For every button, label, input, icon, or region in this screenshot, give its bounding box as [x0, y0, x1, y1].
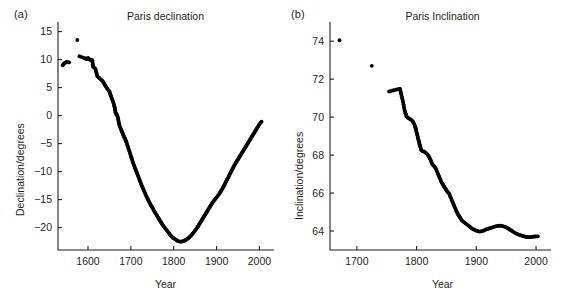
panel-b-plot-area: 7472706866641700180019002000 — [283, 0, 566, 302]
y-tick-label: 10 — [40, 53, 52, 65]
y-tick-label: −10 — [34, 165, 52, 177]
panel-b-title: Paris Inclination — [330, 10, 555, 22]
y-tick-label: −20 — [34, 221, 52, 233]
y-tick-label: −5 — [40, 137, 52, 149]
y-tick-label: 74 — [312, 35, 324, 47]
y-tick-label: 72 — [312, 73, 324, 85]
panel-a-y-axis-title: Declination/degrees — [14, 123, 26, 216]
y-tick-label: 0 — [46, 109, 52, 121]
y-tick-label: 70 — [312, 111, 324, 123]
y-tick-label: 68 — [312, 149, 324, 161]
data-series — [338, 38, 540, 239]
panel-a-declination: (a) Paris declination Declination/degree… — [0, 0, 283, 302]
y-tick-label: 15 — [40, 25, 52, 37]
panel-b-x-axis-title: Year — [330, 278, 555, 290]
x-tick-label: 1700 — [119, 255, 143, 267]
panel-b-inclination: (b) Paris Inclination Inclination/degree… — [283, 0, 566, 302]
x-tick-label: 1900 — [465, 255, 489, 267]
panel-b-label: (b) — [291, 8, 305, 20]
x-tick-label: 1800 — [162, 255, 186, 267]
panel-b-y-axis-title: Inclination/degrees — [293, 132, 305, 220]
panel-a-plot-area: 151050−5−10−15−2016001700180019002000 — [0, 0, 283, 302]
x-tick-label: 2000 — [524, 255, 548, 267]
x-tick-label: 1600 — [76, 255, 100, 267]
figure-container: (a) Paris declination Declination/degree… — [0, 0, 566, 302]
x-tick-label: 1800 — [405, 255, 429, 267]
data-series — [61, 38, 264, 243]
y-tick-label: −15 — [34, 193, 52, 205]
panel-a-title: Paris declination — [58, 10, 273, 22]
y-tick-label: 5 — [46, 81, 52, 93]
y-tick-label: 66 — [312, 187, 324, 199]
x-tick-label: 1900 — [205, 255, 229, 267]
panel-a-label: (a) — [14, 8, 28, 20]
x-tick-label: 1700 — [345, 255, 369, 267]
panel-a-x-axis-title: Year — [58, 278, 273, 290]
y-tick-label: 64 — [312, 225, 324, 237]
x-tick-label: 2000 — [248, 255, 272, 267]
